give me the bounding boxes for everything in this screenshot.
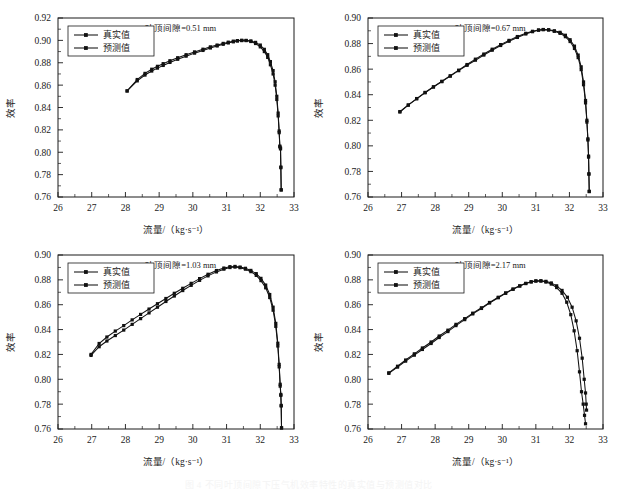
data-point-marker [181,289,184,292]
data-point-marker [244,268,247,271]
legend-label-pred: 预测值 [413,42,440,53]
data-point-marker [530,280,533,283]
data-point-marker [499,43,502,46]
data-point-marker [122,324,125,327]
y-tick-label: 0.80 [344,375,361,385]
x-tick-label: 33 [289,203,299,213]
series-line-true-value [127,40,281,189]
x-tick-label: 28 [121,435,131,445]
x-tick-label: 32 [565,435,575,445]
data-point-marker [238,266,241,269]
y-tick-label: 0.86 [34,81,51,91]
data-point-marker [582,403,585,406]
data-point-marker [168,61,171,64]
data-point-marker [266,56,269,59]
data-point-marker [569,40,572,43]
x-tick-label: 30 [498,203,508,213]
chart-panel-0: 26272829303132330.760.780.800.820.840.86… [0,0,308,243]
y-tick-label: 0.80 [34,148,51,158]
data-point-marker [575,319,578,322]
y-tick-label: 0.88 [344,39,361,49]
data-point-marker [446,330,449,333]
x-tick-label: 32 [256,435,266,445]
x-tick-label: 29 [464,203,474,213]
x-tick-label: 27 [397,203,407,213]
data-point-marker [531,30,534,33]
data-point-marker [139,313,142,316]
x-tick-label: 33 [598,435,608,445]
legend-marker-pred [394,46,398,50]
x-tick-label: 28 [121,203,131,213]
data-point-marker [497,296,500,299]
data-point-marker [147,307,150,310]
y-tick-label: 0.86 [34,300,51,310]
data-point-marker [114,334,117,337]
y-tick-label: 0.90 [344,13,361,23]
x-tick-label: 26 [53,435,63,445]
data-point-marker [278,131,281,134]
data-point-marker [131,323,134,326]
panel-title: 叶顶间隙=2.17 mm [455,260,526,270]
data-point-marker [571,306,574,309]
data-point-marker [240,39,243,42]
legend-marker-true [394,33,398,37]
data-point-marker [576,349,579,352]
data-point-marker [463,318,466,321]
data-point-marker [156,302,159,305]
data-point-marker [206,274,209,277]
data-point-marker [89,354,92,357]
data-point-marker [233,265,236,268]
data-point-marker [198,279,201,282]
y-tick-label: 0.78 [344,167,361,177]
panel-title: 叶顶间隙=0.51 mm [145,23,216,33]
data-point-marker [185,55,188,58]
chart-svg-panel-tip-clearance-217: 26272829303132330.760.780.800.820.840.86… [308,243,617,475]
data-point-marker [524,32,527,35]
panel-title: 叶顶间隙=0.67 mm [455,23,526,33]
data-point-marker [249,270,252,273]
x-tick-label: 26 [363,203,373,213]
legend-label-pred: 预测值 [103,42,130,53]
data-point-marker [216,44,219,47]
y-tick-label: 0.78 [34,170,51,180]
legend-label-true: 真实值 [103,266,130,277]
data-point-marker [105,339,108,342]
data-point-marker [587,156,590,159]
data-point-marker [387,372,390,375]
y-tick-label: 0.84 [344,90,361,100]
y-tick-label: 0.88 [344,275,361,285]
data-point-marker [560,292,563,295]
x-tick-label: 28 [430,435,440,445]
legend-label-true: 真实值 [103,29,130,40]
y-tick-label: 0.92 [34,13,51,23]
y-tick-label: 0.82 [344,350,361,360]
y-tick-label: 0.88 [34,58,51,68]
data-point-marker [566,296,569,299]
data-point-marker [474,58,477,61]
x-tick-label: 30 [498,435,508,445]
data-point-marker [582,83,585,86]
data-point-marker [415,97,418,100]
data-point-marker [423,91,426,94]
data-point-marker [131,318,134,321]
data-point-marker [491,48,494,51]
y-tick-label: 0.90 [34,250,51,260]
data-point-marker [398,110,401,113]
y-tick-label: 0.88 [34,275,51,285]
data-point-marker [98,342,101,345]
data-point-marker [105,335,108,338]
data-point-marker [555,286,558,289]
data-point-marker [209,46,212,49]
legend-marker-true [84,33,88,37]
data-point-marker [201,49,204,52]
data-point-marker [573,47,576,50]
data-point-marker [278,365,281,368]
x-tick-label: 32 [565,203,575,213]
x-tick-label: 29 [464,435,474,445]
y-tick-label: 0.84 [34,103,51,113]
x-axis-title: 流量/（kg·s⁻¹） [452,456,519,467]
x-tick-label: 26 [363,435,373,445]
data-point-marker [162,64,165,67]
data-point-marker [534,280,537,283]
data-point-marker [164,300,167,303]
